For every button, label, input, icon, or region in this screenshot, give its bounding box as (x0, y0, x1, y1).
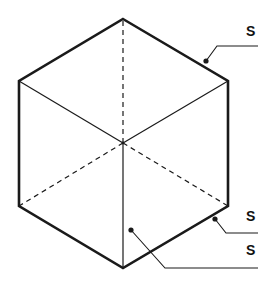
edge-center-upper-right (123, 81, 228, 143)
face-label: S (246, 243, 255, 257)
leader-edge-label (203, 46, 258, 64)
edge-label: S (246, 24, 255, 38)
lower-edge-label: S (246, 209, 255, 223)
cube-drawing (0, 0, 270, 281)
edge-center-upper-left (19, 81, 123, 143)
center-point (122, 142, 125, 145)
hidden-edge-center-lower-left (19, 143, 123, 206)
hidden-edge-center-lower-right (123, 143, 228, 206)
cube-diagram: S S S (0, 0, 270, 281)
